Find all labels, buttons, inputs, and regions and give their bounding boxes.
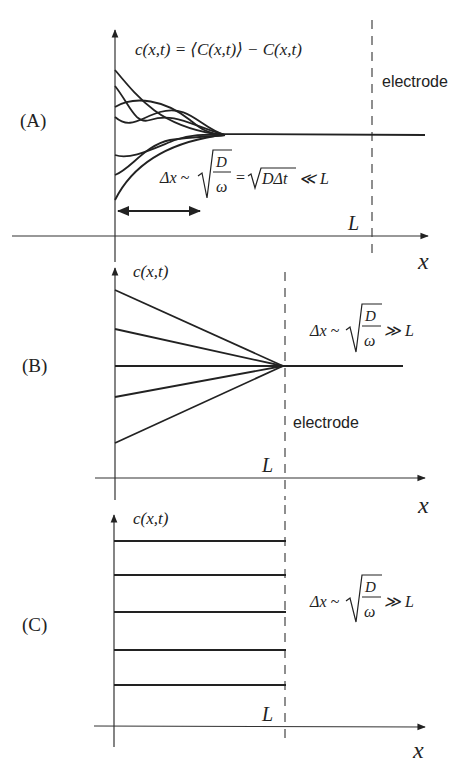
svg-text:D: D xyxy=(215,154,227,170)
panel-b: (B) c(x,t) electrode L x Δx ~ D ω ≫ L xyxy=(22,262,429,518)
panel-c-relation: Δx ~ D ω ≫ L xyxy=(309,575,414,622)
panel-a-x-label: x xyxy=(417,248,429,274)
panel-c-L-label: L xyxy=(261,703,273,725)
svg-text:ω: ω xyxy=(364,603,375,620)
panel-b-x-label: x xyxy=(417,492,429,518)
svg-text:ω: ω xyxy=(216,178,227,195)
svg-text:≫ L: ≫ L xyxy=(384,322,414,339)
panel-b-y-axis-label: c(x,t) xyxy=(133,262,169,281)
panel-c-x-label: x xyxy=(412,737,424,763)
panel-c: (C) c(x,t) L x Δx ~ D ω ≫ L xyxy=(22,505,425,763)
panel-a: (A) c(x,t) = ⟨C(x,t)⟩ − C(x,t) electrode… xyxy=(12,20,448,274)
panel-b-label: (B) xyxy=(22,355,47,377)
panel-a-label: (A) xyxy=(20,110,46,132)
svg-text:D: D xyxy=(364,308,376,324)
panel-c-label: (C) xyxy=(22,614,47,636)
panel-b-L-label: L xyxy=(261,454,273,476)
svg-text:ω: ω xyxy=(364,332,375,349)
panel-a-y-axis-label: c(x,t) = ⟨C(x,t)⟩ − C(x,t) xyxy=(135,40,302,59)
panel-c-y-axis-label: c(x,t) xyxy=(133,509,169,528)
panel-a-electrode-label: electrode xyxy=(382,73,448,90)
svg-text:Δx ~: Δx ~ xyxy=(309,593,339,610)
panel-b-relation: Δx ~ D ω ≫ L xyxy=(309,304,414,352)
diagram-canvas: (A) c(x,t) = ⟨C(x,t)⟩ − C(x,t) electrode… xyxy=(0,0,473,779)
svg-text:=: = xyxy=(236,169,245,186)
panel-a-relation: Δx ~ D ω = DΔt ≪ L xyxy=(159,150,329,198)
panel-a-L-label: L xyxy=(347,212,359,234)
svg-text:Δx ~: Δx ~ xyxy=(159,169,189,186)
panel-b-profile-lines xyxy=(115,290,403,443)
svg-text:D: D xyxy=(364,579,376,595)
svg-text:≪ L: ≪ L xyxy=(299,170,329,187)
panel-b-electrode-label: electrode xyxy=(293,414,359,431)
panel-c-x-axis xyxy=(94,726,425,727)
svg-text:DΔt: DΔt xyxy=(261,170,288,187)
panel-c-profile-lines xyxy=(114,541,286,685)
svg-text:Δx ~: Δx ~ xyxy=(309,322,339,339)
svg-text:≫ L: ≫ L xyxy=(384,593,414,610)
